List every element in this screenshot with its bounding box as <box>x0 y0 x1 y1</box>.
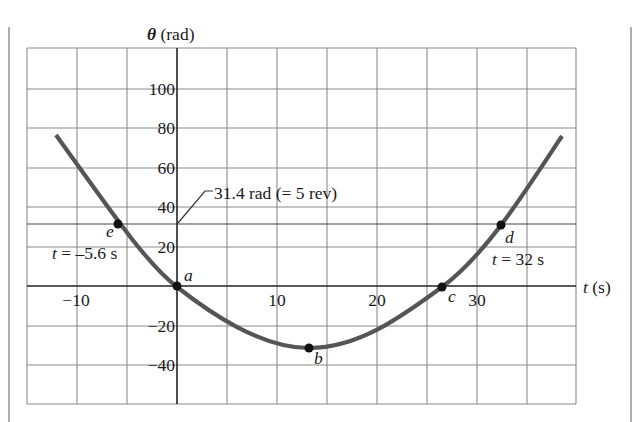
point-c-marker <box>438 283 447 292</box>
y-tick-60: 60 <box>158 158 176 178</box>
chart-svg: θ (rad) t (s) 100 80 60 40 20 −20 −40 −1… <box>0 0 635 422</box>
y-tick-minus-20: −20 <box>148 316 176 336</box>
y-tick-100: 100 <box>149 79 176 99</box>
point-a-label: a <box>184 265 193 285</box>
chart-figure: θ (rad) t (s) 100 80 60 40 20 −20 −40 −1… <box>0 0 635 422</box>
x-tick-30: 30 <box>468 290 486 310</box>
x-axis-title: t (s) <box>583 277 611 297</box>
point-c-label: c <box>448 286 456 306</box>
y-tick-20: 20 <box>158 237 176 257</box>
point-b-marker <box>305 344 314 353</box>
point-d-time: t = 32 s <box>492 249 544 269</box>
point-e-marker <box>114 220 123 229</box>
y-tick-minus-40: −40 <box>148 355 176 375</box>
y-tick-labels: 100 80 60 40 20 −20 −40 <box>148 79 176 375</box>
x-tick-minus-10: −10 <box>62 290 90 310</box>
point-e-time: t = –5.6 s <box>52 243 117 263</box>
point-b-label: b <box>314 348 323 368</box>
x-tick-10: 10 <box>268 290 286 310</box>
point-a-marker <box>173 282 182 291</box>
y-axis-title: θ (rad) <box>147 24 195 44</box>
x-tick-20: 20 <box>368 290 386 310</box>
point-e-label: e <box>106 221 114 241</box>
y-tick-40: 40 <box>158 197 176 217</box>
y-tick-80: 80 <box>158 118 176 138</box>
reference-annotation: 31.4 rad (= 5 rev) <box>214 183 337 203</box>
theta-curve <box>56 135 562 348</box>
point-d-label: d <box>505 227 514 247</box>
